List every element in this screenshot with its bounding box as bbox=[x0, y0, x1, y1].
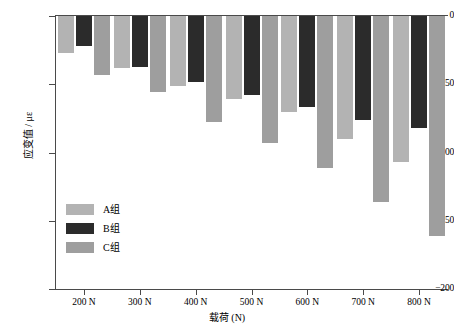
bar-a-800N bbox=[393, 16, 409, 162]
x-tick bbox=[419, 290, 420, 295]
legend-label-c: C组 bbox=[103, 242, 120, 253]
x-tick bbox=[252, 290, 253, 295]
bar-b-800N bbox=[411, 16, 427, 128]
bar-chart: 0−50−100−150−200 200 N300 N400 N500 N600… bbox=[0, 0, 454, 333]
bar-b-200N bbox=[76, 16, 92, 46]
y-tick-label: −200 bbox=[408, 284, 454, 294]
x-tick-label: 800 N bbox=[389, 297, 449, 307]
y-tick bbox=[49, 221, 55, 222]
bar-b-600N bbox=[299, 16, 315, 107]
bar-c-700N bbox=[373, 16, 389, 202]
y-axis-line bbox=[55, 15, 56, 290]
x-tick-label: 300 N bbox=[110, 297, 170, 307]
bar-c-500N bbox=[262, 16, 278, 143]
bar-c-400N bbox=[206, 16, 222, 122]
bar-c-600N bbox=[317, 16, 333, 168]
bar-a-300N bbox=[114, 16, 130, 68]
legend-item-c: C组 bbox=[66, 238, 120, 257]
bar-c-300N bbox=[150, 16, 166, 92]
bar-b-400N bbox=[188, 16, 204, 82]
bar-a-700N bbox=[337, 16, 353, 139]
bar-a-500N bbox=[226, 16, 242, 99]
bar-b-300N bbox=[132, 16, 148, 67]
bar-a-400N bbox=[170, 16, 186, 86]
y-tick bbox=[49, 84, 55, 85]
x-tick-label: 600 N bbox=[277, 297, 337, 307]
bar-b-700N bbox=[355, 16, 371, 120]
bar-c-200N bbox=[94, 16, 110, 75]
y-tick bbox=[49, 289, 55, 290]
y-tick bbox=[49, 16, 55, 17]
legend-item-a: A组 bbox=[66, 200, 120, 219]
legend-label-a: A组 bbox=[103, 204, 120, 215]
legend-swatch-c bbox=[66, 242, 94, 253]
legend-swatch-b bbox=[66, 223, 94, 234]
x-tick-label: 200 N bbox=[54, 297, 114, 307]
x-tick bbox=[140, 290, 141, 295]
x-tick-label: 500 N bbox=[222, 297, 282, 307]
x-tick bbox=[196, 290, 197, 295]
legend-item-b: B组 bbox=[66, 219, 120, 238]
y-axis-title: 应变值 / με bbox=[23, 101, 34, 171]
x-tick-label: 400 N bbox=[166, 297, 226, 307]
x-tick bbox=[84, 290, 85, 295]
legend-label-b: B组 bbox=[103, 223, 120, 234]
legend: A组B组C组 bbox=[66, 200, 120, 257]
bar-a-600N bbox=[281, 16, 297, 112]
y-tick bbox=[49, 153, 55, 154]
x-tick bbox=[363, 290, 364, 295]
bar-b-500N bbox=[244, 16, 260, 95]
x-tick bbox=[307, 290, 308, 295]
x-axis-title: 载荷 (N) bbox=[0, 312, 454, 323]
bar-a-200N bbox=[58, 16, 74, 53]
x-tick-label: 700 N bbox=[333, 297, 393, 307]
bar-c-800N bbox=[429, 16, 445, 236]
legend-swatch-a bbox=[66, 204, 94, 215]
